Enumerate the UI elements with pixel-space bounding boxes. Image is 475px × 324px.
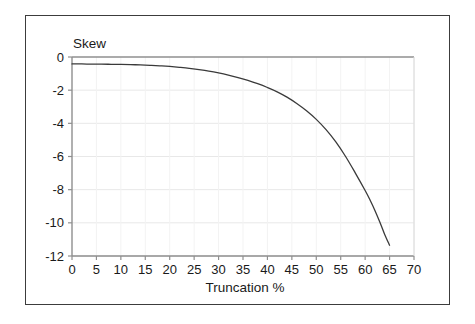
- x-tick-label: 50: [309, 262, 323, 277]
- x-tick-label: 40: [260, 262, 274, 277]
- x-tick-label: 30: [211, 262, 225, 277]
- y-tick-label: -4: [52, 116, 64, 131]
- x-tick-label: 60: [358, 262, 372, 277]
- x-tick-label: 55: [333, 262, 347, 277]
- figure-canvas: 0-2-4-6-8-10-12 051015202530354045505560…: [0, 0, 475, 324]
- y-tick-labels: 0-2-4-6-8-10-12: [45, 50, 64, 264]
- x-tick-label: 10: [114, 262, 128, 277]
- x-tick-label: 25: [187, 262, 201, 277]
- x-axis-title: Truncation %: [205, 280, 284, 295]
- y-tick-label: -12: [45, 249, 64, 264]
- y-tick-label: 0: [57, 50, 64, 65]
- skew-vs-truncation-chart: 0-2-4-6-8-10-12 051015202530354045505560…: [0, 0, 475, 324]
- y-tick-label: -8: [52, 182, 64, 197]
- y-tick-label: -6: [52, 149, 64, 164]
- y-tick-label: -10: [45, 215, 64, 230]
- x-tick-label: 65: [382, 262, 396, 277]
- x-tick-label: 20: [162, 262, 176, 277]
- x-tick-label: 0: [68, 262, 75, 277]
- y-axis-title: Skew: [73, 36, 106, 51]
- x-tick-label: 70: [407, 262, 421, 277]
- x-tick-label: 45: [285, 262, 299, 277]
- x-tick-label: 15: [138, 262, 152, 277]
- x-tick-labels: 0510152025303540455055606570: [68, 262, 421, 277]
- y-tick-label: -2: [52, 83, 64, 98]
- x-tick-label: 5: [93, 262, 100, 277]
- x-tick-label: 35: [236, 262, 250, 277]
